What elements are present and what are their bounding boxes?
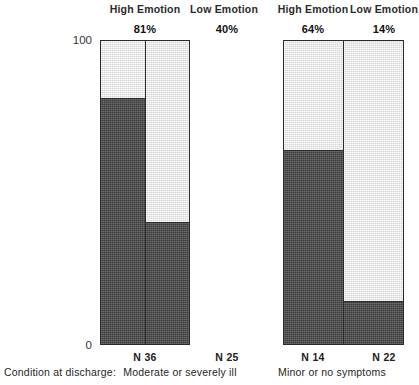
column-header-group1-high-emotion: High Emotion	[110, 3, 181, 15]
bar-segment-light-1	[101, 41, 145, 98]
chart-canvas: High Emotion Low Emotion High Emotion Lo…	[0, 0, 419, 385]
bar-segment-dark-2	[146, 222, 190, 344]
value-label-bar-4: 14%	[373, 23, 396, 35]
y-axis-tick-100: 100	[50, 34, 92, 46]
bar-group-minor-or-no-symptoms	[283, 40, 404, 345]
bar-segment-dark-1	[101, 98, 145, 344]
n-label-bar-4: N 22	[372, 351, 395, 363]
bar-segment-dark-3	[284, 150, 343, 344]
n-label-bar-3: N 14	[301, 351, 324, 363]
value-label-bar-3: 64%	[302, 23, 325, 35]
bar-group1-high-emotion[interactable]	[101, 41, 145, 344]
n-label-bar-2: N 25	[215, 351, 238, 363]
bar-group1-low-emotion[interactable]	[145, 41, 190, 344]
caption-group1-label: Moderate or severely ill	[123, 366, 236, 378]
caption-prefix-condition-at-discharge: Condition at discharge:	[4, 366, 116, 378]
bar-group2-high-emotion[interactable]	[284, 41, 343, 344]
y-axis-tick-0: 0	[50, 339, 92, 351]
bar-group-moderate-or-severely-ill	[100, 40, 190, 345]
column-header-group2-high-emotion: High Emotion	[278, 3, 349, 15]
value-label-bar-2: 40%	[216, 23, 239, 35]
bar-segment-light-3	[284, 41, 343, 150]
value-label-bar-1: 81%	[134, 23, 157, 35]
bar-segment-light-2	[146, 41, 190, 222]
bar-group2-low-emotion[interactable]	[343, 41, 403, 344]
bar-segment-dark-4	[344, 301, 403, 344]
caption-group2-label: Minor or no symptoms	[278, 366, 386, 378]
column-header-group1-low-emotion: Low Emotion	[190, 3, 258, 15]
n-label-bar-1: N 36	[133, 351, 156, 363]
column-header-group2-low-emotion: Low Emotion	[350, 3, 418, 15]
bar-segment-light-4	[344, 41, 403, 301]
